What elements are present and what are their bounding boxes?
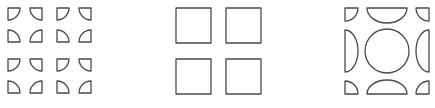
quarter-disk-piece (57, 8, 69, 20)
square-piece (176, 59, 211, 94)
half-disk-bottom (367, 80, 407, 94)
half-disk-top (367, 8, 407, 23)
quarter-disk-piece (30, 30, 42, 42)
puzzle-diagram (0, 0, 435, 108)
corner-quarter-top-right (416, 8, 429, 21)
quarter-disk-piece (79, 8, 91, 20)
corner-quarter-top-left (345, 8, 358, 21)
quarter-disk-piece (30, 8, 42, 20)
quarter-disk-piece (30, 81, 42, 93)
center-circle (365, 29, 409, 73)
quarter-disk-piece (8, 59, 20, 71)
half-disk-right (416, 30, 429, 72)
quarter-disk-piece (8, 30, 20, 42)
corner-quarter-bottom-left (345, 81, 358, 94)
quarter-pieces-panel (8, 8, 91, 93)
corner-quarter-bottom-right (416, 81, 429, 94)
square-piece (176, 8, 211, 43)
quarter-disk-piece (79, 30, 91, 42)
quarter-disk-piece (57, 59, 69, 71)
half-disk-left (345, 30, 358, 72)
square-piece (226, 59, 261, 94)
quarter-disk-piece (8, 81, 20, 93)
quarter-disk-piece (57, 81, 69, 93)
quarter-disk-piece (8, 8, 20, 20)
quarter-disk-piece (30, 59, 42, 71)
quarter-disk-piece (79, 81, 91, 93)
four-squares-panel (176, 8, 261, 94)
quarter-disk-piece (57, 30, 69, 42)
circle-composition-panel (345, 8, 429, 94)
quarter-disk-piece (79, 59, 91, 71)
square-piece (226, 8, 261, 43)
